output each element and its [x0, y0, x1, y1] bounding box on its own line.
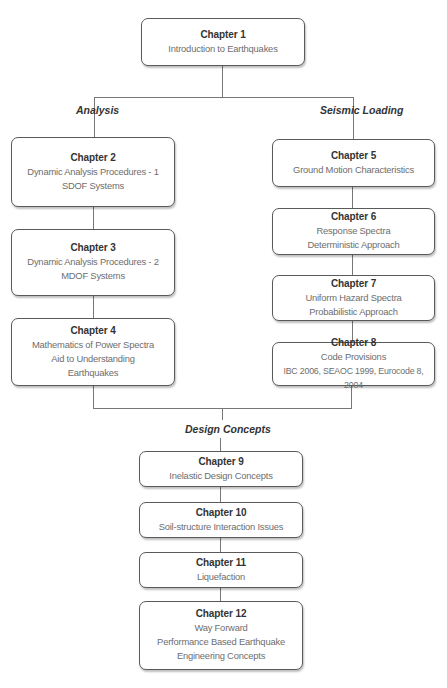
chapter-subtitle: Engineering Concepts	[177, 649, 265, 663]
section-label-seismic-loading: Seismic Loading	[320, 104, 403, 116]
connector-ch6-ch7	[352, 255, 353, 275]
chapter-title: Chapter 5	[331, 150, 376, 161]
chapter-subtitle: Introduction to Earthquakes	[168, 42, 277, 56]
connector-ch9-ch10	[220, 487, 221, 502]
connector-ch3-ch4	[93, 296, 94, 318]
chapter-subtitle: Ground Motion Characteristics	[293, 163, 414, 177]
chapter-subtitle: Mathematics of Power Spectra	[32, 338, 154, 352]
connector-top-branch	[94, 97, 354, 98]
chapter-title: Chapter 4	[70, 325, 115, 336]
connector-ch1-down	[222, 66, 223, 97]
chapter-subtitle: Deterministic Approach	[308, 238, 400, 252]
chapter-6-box: Chapter 6 Response Spectra Deterministic…	[272, 208, 435, 255]
chapter-title: Chapter 8	[331, 337, 376, 348]
connector-ch10-ch11	[220, 538, 221, 552]
chapter-subtitle: Soil-structure Interaction Issues	[159, 520, 284, 534]
chapter-11-box: Chapter 11 Liquefaction	[139, 552, 303, 588]
chapter-title: Chapter 10	[196, 507, 247, 518]
chapter-1-box: Chapter 1 Introduction to Earthquakes	[141, 18, 305, 66]
chapter-subtitle: Liquefaction	[197, 570, 245, 584]
chapter-subtitle: Way Forward	[194, 621, 247, 635]
chapter-subtitle: Code Provisions	[321, 350, 386, 364]
chapter-9-box: Chapter 9 Inelastic Design Concepts	[139, 451, 303, 487]
connector-ch5-ch6	[352, 187, 353, 208]
chapter-subtitle: MDOF Systems	[61, 269, 125, 283]
chapter-subtitle: SDOF Systems	[62, 179, 124, 193]
chapter-5-box: Chapter 5 Ground Motion Characteristics	[272, 139, 435, 187]
chapter-8-box: Chapter 8 Code Provisions IBC 2006, SEAO…	[272, 342, 435, 386]
connector-ch2-ch3	[93, 207, 94, 229]
section-label-design-concepts: Design Concepts	[185, 423, 271, 435]
chapter-12-box: Chapter 12 Way Forward Performance Based…	[139, 601, 303, 670]
chapter-10-box: Chapter 10 Soil-structure Interaction Is…	[139, 502, 303, 538]
chapter-subtitle: Probabilistic Approach	[309, 305, 397, 319]
section-label-analysis: Analysis	[76, 104, 119, 116]
chapter-4-box: Chapter 4 Mathematics of Power Spectra A…	[11, 318, 175, 386]
chapter-subtitle: Inelastic Design Concepts	[169, 469, 272, 483]
chapter-title: Chapter 1	[200, 29, 245, 40]
chapter-subtitle: Performance Based Earthquake	[157, 635, 285, 649]
chapter-title: Chapter 3	[70, 242, 115, 253]
chapter-subtitle: Dynamic Analysis Procedures - 1	[27, 165, 158, 179]
chapter-subtitle: Aid to Understanding	[51, 352, 135, 366]
connector-ch11-ch12	[220, 588, 221, 601]
chapter-title: Chapter 2	[70, 152, 115, 163]
chapter-subtitle: IBC 2006, SEAOC 1999, Eurocode 8, 2004	[273, 364, 434, 392]
chapter-7-box: Chapter 7 Uniform Hazard Spectra Probabi…	[272, 275, 435, 321]
chapter-title: Chapter 7	[331, 278, 376, 289]
connector-merge-down	[222, 408, 223, 420]
chapter-title: Chapter 11	[196, 557, 246, 568]
chapter-title: Chapter 9	[198, 456, 243, 467]
chapter-subtitle: Uniform Hazard Spectra	[305, 291, 401, 305]
chapter-3-box: Chapter 3 Dynamic Analysis Procedures - …	[11, 229, 175, 296]
chapter-2-box: Chapter 2 Dynamic Analysis Procedures - …	[11, 137, 175, 207]
connector-ch4-down	[93, 386, 94, 408]
connector-design-down	[220, 438, 221, 451]
chapter-subtitle: Response Spectra	[317, 224, 391, 238]
chapter-subtitle: Dynamic Analysis Procedures - 2	[27, 255, 158, 269]
connector-to-analysis	[94, 97, 95, 137]
chapter-subtitle: Earthquakes	[68, 366, 118, 380]
chapter-title: Chapter 6	[331, 211, 376, 222]
chapter-title: Chapter 12	[196, 608, 247, 619]
